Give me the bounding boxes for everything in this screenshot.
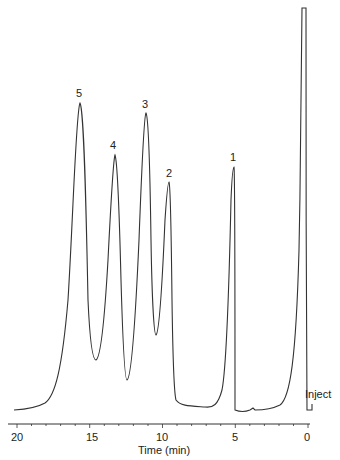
inject-label: Inject: [305, 388, 331, 400]
peak-label-2: 2: [166, 167, 172, 179]
peak-label-3: 3: [142, 98, 148, 110]
x-tick-10: 10: [156, 431, 168, 443]
peak-label-1: 1: [230, 151, 236, 163]
x-tick-20: 20: [11, 431, 23, 443]
x-tick-15: 15: [86, 431, 98, 443]
x-tick-5: 5: [232, 431, 238, 443]
peak-label-4: 4: [110, 139, 116, 151]
x-axis-label: Time (min): [138, 444, 190, 456]
x-tick-0: 0: [304, 431, 310, 443]
peak-label-5: 5: [76, 87, 82, 99]
chromatogram-trace: [14, 8, 312, 412]
chromatogram: 5 4 3 2 1 Inject 20 15 10 5 0 Time (min): [0, 0, 340, 460]
x-axis-minor-ticks: [17, 424, 308, 428]
